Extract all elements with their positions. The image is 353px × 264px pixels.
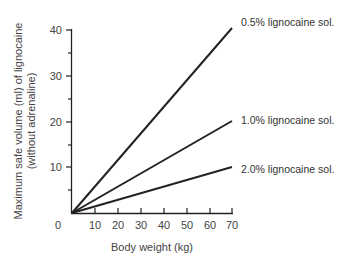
series-line-0.5pct xyxy=(72,28,232,213)
x-tick-label-10: 10 xyxy=(89,219,101,231)
y-axis-title-line1: Maximum safe volume (ml) of lignocaine xyxy=(12,23,24,220)
series-label-0.5pct: 0.5% lignocaine sol. xyxy=(241,16,334,28)
y-tick-label-30: 30 xyxy=(50,70,62,82)
y-tick-label-20: 20 xyxy=(50,116,62,128)
x-tick-label-20: 20 xyxy=(112,219,124,231)
chart: 40 30 20 10 0 10 20 30 40 50 60 70 Body … xyxy=(0,0,353,264)
origin-label: 0 xyxy=(55,219,61,231)
x-tick-label-40: 40 xyxy=(158,219,170,231)
y-tick-label-40: 40 xyxy=(50,24,62,36)
x-ticks xyxy=(95,208,232,214)
x-tick-label-50: 50 xyxy=(181,219,193,231)
series-label-1.0pct: 1.0% lignocaine sol. xyxy=(241,114,334,126)
series-line-2.0pct xyxy=(72,167,232,213)
series-label-2.0pct: 2.0% lignocaine sol. xyxy=(241,163,334,175)
x-axis-title: Body weight (kg) xyxy=(111,241,193,253)
x-tick-label-30: 30 xyxy=(135,219,147,231)
y-tick-label-10: 10 xyxy=(50,161,62,173)
x-tick-label-60: 60 xyxy=(204,219,216,231)
series-line-1.0pct xyxy=(72,121,232,213)
x-tick-label-70: 70 xyxy=(226,219,238,231)
y-axis-title-line2: (without adrenaline) xyxy=(25,73,37,170)
y-ticks xyxy=(66,30,72,190)
